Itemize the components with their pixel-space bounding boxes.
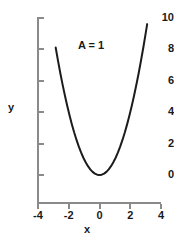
x-tick-label: 2 xyxy=(118,210,142,221)
y-tick-mark xyxy=(39,174,44,176)
x-tick-label: -2 xyxy=(57,210,81,221)
x-tick-label: 0 xyxy=(88,210,112,221)
chart-annotation: A = 1 xyxy=(78,40,104,51)
y-tick-label: 6 xyxy=(148,75,174,86)
y-tick-mark xyxy=(39,17,44,19)
x-axis-title: x xyxy=(0,224,174,235)
x-tick-label: -4 xyxy=(26,210,50,221)
y-tick-label: 0 xyxy=(148,169,174,180)
y-tick-label: 8 xyxy=(148,43,174,54)
y-tick-label: 2 xyxy=(148,138,174,149)
y-tick-mark xyxy=(39,48,44,50)
y-tick-mark xyxy=(39,111,44,113)
y-axis-title: y xyxy=(8,102,14,113)
y-tick-mark xyxy=(39,143,44,145)
y-tick-label: 10 xyxy=(148,12,174,23)
x-tick-label: 4 xyxy=(149,210,173,221)
y-tick-label: 4 xyxy=(148,106,174,117)
chart-figure: 0246810 -4-2024 y x A = 1 xyxy=(0,0,174,238)
y-tick-mark xyxy=(39,80,44,82)
